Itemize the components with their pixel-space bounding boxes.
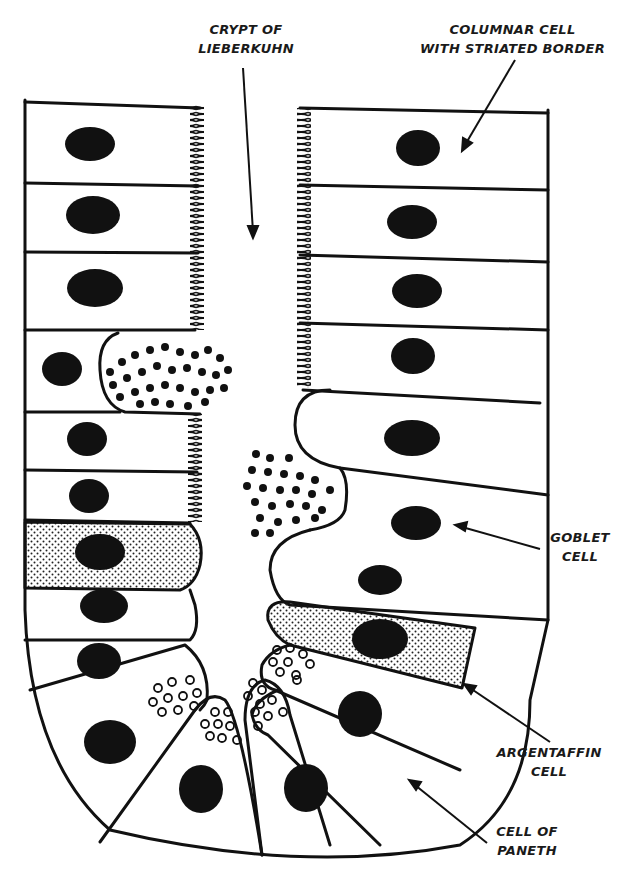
arrow-columnar (465, 60, 515, 145)
arrow-crypt (243, 68, 253, 232)
mucus-droplets-left (106, 343, 232, 410)
paneth-granules (149, 644, 314, 744)
label-columnar-cell: COLUMNAR CELL WITH STRIATED BORDER (400, 20, 625, 58)
arrow-argentaffin (470, 688, 550, 742)
striated-border-left (190, 105, 204, 330)
label-crypt-of-lieberkuhn: CRYPT OF LIEBERKUHN (186, 20, 306, 58)
label-cell-of-paneth: CELL OF PANETH (482, 822, 572, 860)
label-goblet-cell: GOBLET CELL (540, 528, 620, 566)
label-argentaffin-cell: ARGENTAFFIN CELL (484, 743, 614, 781)
striated-border-right (297, 108, 311, 388)
arrow-paneth (415, 785, 487, 843)
arrow-goblet (462, 527, 540, 549)
